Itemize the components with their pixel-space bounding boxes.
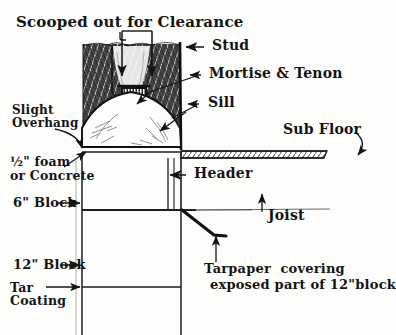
sill-label: Sill (208, 95, 235, 110)
mortise-tenon-label: Mortise & Tenon (209, 66, 343, 81)
sub-floor-label: Sub Floor (283, 122, 361, 137)
title-leader (120, 32, 126, 40)
foam-label-line2: or Concrete (10, 169, 95, 183)
tarpaper-label-line1: Tarpaper covering (204, 262, 345, 276)
stud-label: Stud (212, 38, 249, 53)
tarpaper-line (182, 210, 226, 236)
tarpaper-label-line2: exposed part of 12"block (210, 278, 396, 292)
slight-overhang-label-line1: Slight (12, 104, 54, 117)
slight-overhang-label-line2: Overhang (12, 117, 79, 130)
title-label: Scooped out for Clearance (16, 14, 243, 30)
foam-label-line1: ½" foam (10, 155, 70, 169)
header-label: Header (194, 166, 252, 181)
joist-line (181, 209, 330, 210)
block6-label: 6" Block (13, 196, 76, 210)
tar-coating-label-line2: Coating (10, 294, 66, 308)
joist-label: Joist (268, 208, 305, 223)
block12-label: 12" Block (13, 258, 86, 272)
arrow-overhang (55, 129, 82, 148)
sub-floor-board (181, 151, 327, 158)
